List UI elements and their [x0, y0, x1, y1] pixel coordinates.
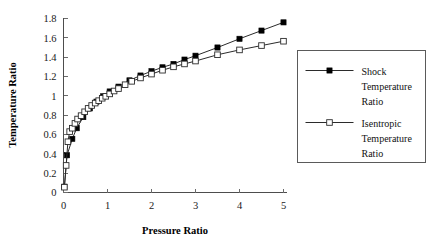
data-point-marker: [122, 82, 128, 88]
x-tick-label: 0: [61, 200, 66, 211]
data-point-marker: [193, 53, 198, 58]
data-point-marker: [259, 43, 265, 49]
data-point-marker: [237, 47, 243, 53]
data-point-marker: [63, 163, 69, 169]
data-point-marker: [116, 86, 122, 92]
data-point-marker: [281, 38, 287, 44]
legend-marker: [327, 68, 332, 73]
data-point-marker: [149, 71, 155, 77]
x-tick-labels: 012345: [61, 200, 286, 211]
chart-svg: 012345 00.20.40.60.811.21.41.61.8 ShockT…: [0, 0, 432, 245]
y-tick-label: 1.8: [43, 13, 56, 24]
y-tick-label: 1.2: [43, 71, 56, 82]
x-tick-label: 2: [149, 200, 154, 211]
y-tick-label: 1.4: [43, 52, 57, 63]
x-tick-label: 1: [105, 200, 110, 211]
data-point-marker: [182, 61, 188, 67]
y-tick-label: 1.6: [43, 33, 56, 44]
data-point-marker: [193, 58, 199, 64]
x-axis-title: Pressure Ratio: [142, 225, 208, 236]
data-point-marker: [129, 79, 135, 85]
y-tick-label: 1: [51, 91, 56, 102]
legend-label-line: Ratio: [362, 148, 384, 159]
legend-marker: [327, 120, 333, 126]
y-tick-label: 0.4: [43, 149, 57, 160]
legend-label-line: Ratio: [362, 96, 384, 107]
legend-label-line: Temperature: [362, 133, 413, 144]
y-tick-label: 0: [51, 187, 56, 198]
legend-label-line: Temperature: [362, 81, 413, 92]
y-tick-label: 0.8: [43, 110, 56, 121]
y-axis-title: Temperature Ratio: [7, 62, 18, 147]
data-point-marker: [65, 139, 71, 145]
data-point-marker: [281, 20, 286, 25]
chart-figure: 012345 00.20.40.60.811.21.41.61.8 ShockT…: [0, 0, 432, 245]
legend-label-line: Isentropic: [362, 118, 403, 129]
legend-label-line: Shock: [362, 66, 387, 77]
data-point-marker: [171, 64, 177, 70]
data-point-marker: [237, 36, 242, 41]
data-point-marker: [62, 184, 68, 190]
data-series: [62, 20, 287, 190]
x-tick-label: 5: [281, 200, 286, 211]
data-point-marker: [215, 45, 220, 50]
y-tick-labels: 00.20.40.60.811.21.41.61.8: [43, 13, 57, 198]
y-tick-label: 0.6: [43, 129, 56, 140]
x-tick-label: 3: [193, 200, 198, 211]
x-tick-label: 4: [237, 200, 243, 211]
y-tick-label: 0.2: [43, 168, 56, 179]
data-point-marker: [160, 67, 166, 73]
data-point-marker: [259, 28, 264, 33]
chart-legend: ShockTemperatureRatioIsentropicTemperatu…: [298, 51, 426, 163]
data-point-marker: [138, 75, 144, 81]
data-point-marker: [215, 52, 221, 58]
